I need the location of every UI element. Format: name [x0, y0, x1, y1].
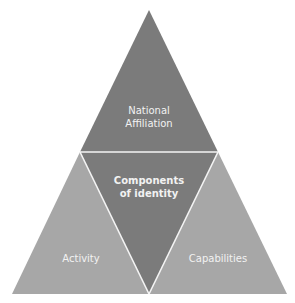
center-label-line2: of identity — [114, 187, 184, 200]
bottom-left-label: Activity — [62, 252, 99, 265]
triangle-shapes — [0, 0, 295, 303]
top-label-line2: Affiliation — [125, 117, 172, 130]
top-label-line1: National — [125, 104, 172, 117]
top-label: National Affiliation — [125, 104, 172, 130]
center-label: Components of identity — [114, 174, 184, 200]
center-label-line1: Components — [114, 174, 184, 187]
identity-triangle-diagram: National Affiliation Components of ident… — [0, 0, 295, 303]
top-triangle-national-affiliation — [80, 10, 218, 152]
bottom-right-label: Capabilities — [189, 252, 247, 265]
